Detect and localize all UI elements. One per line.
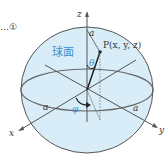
sphere-label: 球面 — [52, 45, 74, 59]
equation-ref: …① — [0, 22, 17, 32]
phi-label: φ — [72, 104, 79, 114]
radius-label-right: a — [133, 103, 138, 113]
point-label: P(x, y, z) — [103, 40, 141, 50]
radius-label-left: a — [43, 102, 48, 112]
x-axis-label: x — [9, 128, 14, 138]
radius-label-top: a — [89, 28, 94, 38]
y-axis-label: y — [158, 125, 165, 135]
z-axis-label: z — [76, 9, 82, 19]
sphere-diagram: …① 球面 P(x, y, z) z x y a a a θ φ — [0, 0, 167, 157]
theta-label: θ — [89, 58, 95, 68]
